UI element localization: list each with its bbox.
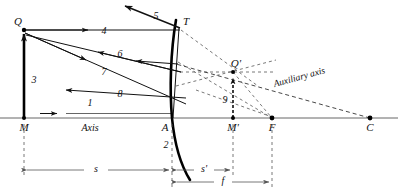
dashed-to-focus [178, 62, 272, 118]
dim-label-sprime: s' [201, 163, 208, 174]
label-auxiliary-axis: Auxiliary axis [271, 65, 326, 89]
optics-ray-diagram: Q M T A M' Q' F C 1 2 3 4 5 6 7 8 9 Axis… [0, 0, 398, 196]
diagram-canvas: Q M T A M' Q' F C 1 2 3 4 5 6 7 8 9 Axis… [0, 0, 398, 196]
concave-mirror-surface [171, 20, 190, 180]
ray-label-6: 6 [118, 48, 123, 59]
construction-lines-group [176, 30, 370, 118]
dashed-Qprime-to-F [233, 72, 272, 118]
ray-8-group [66, 90, 186, 98]
ray-number-labels-group: 1 2 3 4 5 6 7 8 9 [31, 10, 228, 150]
ray-7-arrow-seg [25, 33, 86, 60]
label-point-C: C [366, 121, 374, 133]
ray-5-group [125, 6, 180, 28]
label-point-Qprime: Q' [231, 57, 242, 69]
dashed-T-to-Qprime [181, 30, 258, 86]
ray-label-8: 8 [118, 88, 123, 99]
label-point-T: T [183, 15, 190, 27]
ray-8-reflected [66, 90, 186, 98]
dot-Q [22, 28, 26, 32]
dim-label-s: s [94, 163, 98, 174]
label-point-A: A [161, 121, 169, 133]
ray-label-3: 3 [31, 74, 37, 85]
dot-Qprime [231, 70, 235, 74]
mirror-group [171, 20, 190, 180]
dashed-lower-to-F [196, 90, 272, 117]
principal-axis-group [0, 114, 398, 119]
dashed-mirror-to-Qprime-upper [176, 60, 276, 86]
dot-M [22, 116, 26, 120]
ray-label-9: 9 [223, 94, 228, 105]
label-axis: Axis [80, 122, 98, 133]
dot-Mprime [231, 116, 235, 120]
ray-label-7: 7 [102, 66, 108, 77]
ray-label-5: 5 [154, 10, 159, 21]
dot-F [270, 116, 275, 121]
dimension-group: s s' f [24, 124, 272, 188]
dot-C [368, 116, 373, 121]
ray-label-4: 4 [102, 25, 107, 36]
ray-label-1: 1 [88, 97, 93, 108]
ray-5-reflected-from-T [125, 6, 180, 28]
ray-label-2: 2 [164, 139, 169, 150]
label-point-Q: Q [14, 15, 22, 27]
text-labels-group: Axis Auxiliary axis [80, 65, 326, 133]
